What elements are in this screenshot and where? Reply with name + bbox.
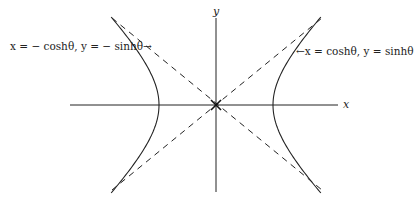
- y-axis-label: y: [213, 6, 219, 18]
- right-branch-label: ←x = coshθ, y = sinhθ: [296, 45, 414, 57]
- x-axis-label: x: [343, 99, 349, 111]
- hyperbola-diagram: [0, 0, 415, 212]
- left-branch-label: x = − coshθ, y = − sinhθ→: [10, 40, 152, 52]
